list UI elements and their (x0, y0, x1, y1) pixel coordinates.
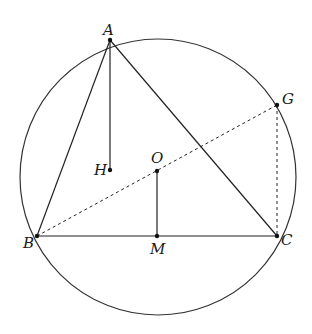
label-o: O (151, 149, 163, 167)
label-c: C (281, 231, 293, 249)
segment-ab (37, 40, 110, 236)
label-b: B (22, 234, 34, 252)
label-m: M (149, 240, 166, 258)
point-o (155, 169, 159, 173)
point-c (275, 234, 279, 238)
label-a: A (101, 21, 114, 39)
point-b (35, 234, 39, 238)
segment-ac (110, 40, 277, 236)
geometry-diagram: A B C G H O M (0, 0, 312, 334)
label-h: H (93, 161, 108, 179)
point-g (275, 103, 279, 107)
point-m (155, 234, 159, 238)
circumcircle (20, 39, 296, 315)
point-h (108, 168, 112, 172)
label-g: G (282, 90, 294, 108)
